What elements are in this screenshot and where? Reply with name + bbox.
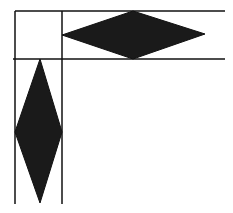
horizontal-diamond	[62, 11, 205, 59]
diagram-canvas	[0, 0, 233, 213]
vertical-diamond	[15, 59, 62, 203]
